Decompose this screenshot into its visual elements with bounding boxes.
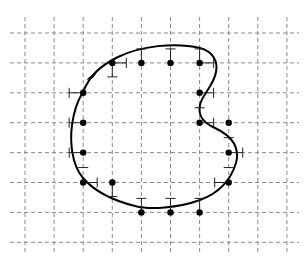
- lattice-point: [196, 90, 202, 96]
- lattice-point: [226, 120, 232, 126]
- direction-arrow-icon: [86, 68, 100, 80]
- lattice-point: [138, 209, 144, 215]
- lattice-point: [80, 120, 86, 126]
- lattice-point: [226, 179, 232, 185]
- lattice-point: [80, 149, 86, 155]
- lattice-point: [109, 179, 115, 185]
- lattice-point: [196, 120, 202, 126]
- lattice-point: [80, 179, 86, 185]
- lattice-diagram: [0, 0, 307, 263]
- closed-curve: [71, 45, 237, 208]
- lattice-point: [226, 149, 232, 155]
- lattice-point: [138, 60, 144, 66]
- lattice-point: [167, 60, 173, 66]
- lattice-points: [80, 60, 232, 216]
- dashed-grid: [10, 17, 299, 254]
- lattice-point: [196, 60, 202, 66]
- lattice-point: [80, 90, 86, 96]
- lattice-point: [109, 60, 115, 66]
- lattice-point: [167, 209, 173, 215]
- lattice-point: [196, 209, 202, 215]
